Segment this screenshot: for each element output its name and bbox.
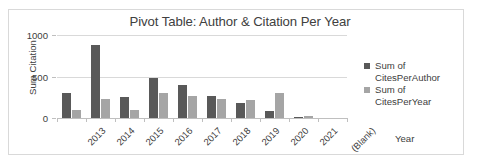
bar[interactable] [304,116,313,118]
x-axis-tick [289,118,290,122]
x-axis-tick [144,118,145,122]
x-axis-tick-label: 2014 [114,125,137,148]
x-axis-tick-label: 2017 [201,125,224,148]
plot-area: 05001000 [57,35,347,118]
x-axis-tick-label: 2020 [288,125,311,148]
y-axis-tick [52,118,56,119]
legend-label-line1: Sum of [375,60,472,72]
bar[interactable] [101,99,110,118]
bar[interactable] [91,45,100,118]
y-axis-tick-label: 0 [43,113,48,124]
y-axis-tick [52,77,56,78]
bar[interactable] [130,110,139,118]
y-axis-tick-label: 500 [32,71,48,82]
legend-item-cites-per-author[interactable]: Sum of CitesPerAuthor [364,60,472,83]
bar[interactable] [149,78,158,118]
legend-item-cites-per-year[interactable]: Sum of CitesPerYear [364,84,472,107]
bar[interactable] [294,117,303,118]
legend-label-line2: CitesPerAuthor [375,72,472,84]
bar[interactable] [207,96,216,118]
x-axis-tick-label: 2013 [85,125,108,148]
legend-label-line2: CitesPerYear [375,96,472,108]
legend-label-line1: Sum of [375,84,472,96]
x-axis-tick [115,118,116,122]
x-axis-tick-label: 2019 [259,125,282,148]
x-axis-tick [347,118,348,122]
legend-swatch-icon [364,87,370,93]
bar[interactable] [188,96,197,118]
legend-swatch-icon [364,63,370,69]
bar[interactable] [236,103,245,118]
bar[interactable] [246,100,255,118]
chart-title: Pivot Table: Author & Citation Per Year [105,14,375,29]
x-axis-tick [231,118,232,122]
x-axis-tick-label: 2018 [230,125,253,148]
x-axis-tick [86,118,87,122]
gridline [57,77,347,78]
x-axis-tick [57,118,58,122]
bar[interactable] [265,111,274,118]
bar[interactable] [275,93,284,118]
bar[interactable] [62,93,71,118]
x-axis-tick [260,118,261,122]
gridline [57,35,347,36]
x-axis-tick [318,118,319,122]
x-axis-tick-label: 2015 [143,125,166,148]
bar[interactable] [217,99,226,118]
x-axis-tick [173,118,174,122]
x-axis-title: Year [395,133,414,144]
bar[interactable] [120,97,129,118]
chart-container: Pivot Table: Author & Citation Per Year … [8,9,464,155]
bar[interactable] [72,110,81,118]
bar[interactable] [159,93,168,118]
x-axis-tick-label: 2021 [317,125,340,148]
bar[interactable] [178,85,187,118]
x-axis-tick [202,118,203,122]
y-axis-tick [52,35,56,36]
y-axis-title: Sum Citation [27,32,38,104]
x-axis-tick-label: 2016 [172,125,195,148]
y-axis-tick-label: 1000 [27,30,48,41]
chart-legend: Sum of CitesPerAuthor Sum of CitesPerYea… [364,60,472,108]
x-axis-tick-label: (Blank) [348,125,377,154]
